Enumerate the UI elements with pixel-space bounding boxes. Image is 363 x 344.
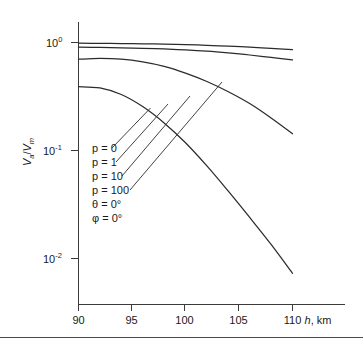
legend-item-p-0: p = 0 xyxy=(92,142,117,154)
x-axis-tick-labels: 90 95 100 105 110 xyxy=(72,314,301,326)
x-tick-label-90: 90 xyxy=(72,314,84,326)
leader-p-0 xyxy=(112,108,151,148)
y-tick-label-1e-2: 10-2 xyxy=(43,251,62,265)
x-axis-title: h, km xyxy=(305,314,332,326)
leader-p-100 xyxy=(130,82,222,190)
legend-item-theta: θ = 0° xyxy=(92,198,121,210)
curve-p-10 xyxy=(79,58,293,133)
y-axis-tick-labels: 100 10-1 10-2 xyxy=(43,35,62,265)
legend-item-p-100: p = 100 xyxy=(92,184,129,196)
x-tick-label-105: 105 xyxy=(229,314,247,326)
y-tick-label-1e0: 100 xyxy=(46,35,62,49)
axis-lines xyxy=(78,22,345,305)
x-tick-label-95: 95 xyxy=(125,314,137,326)
svg-text:h, km: h, km xyxy=(305,314,332,326)
y-axis-title: Va/Vm xyxy=(21,138,36,166)
legend-item-phi: φ = 0° xyxy=(92,212,122,224)
y-axis-ticks xyxy=(71,43,79,259)
svg-text:Va/Vm: Va/Vm xyxy=(21,138,36,166)
legend-item-p-1: p = 1 xyxy=(92,156,117,168)
figure-container: 100 10-1 10-2 Va/Vm 90 95 100 105 110 h,… xyxy=(0,0,363,344)
bottom-divider xyxy=(0,337,363,338)
curve-p-0 xyxy=(79,43,293,49)
leader-p-1 xyxy=(116,104,168,162)
legend-item-p-10: p = 10 xyxy=(92,170,123,182)
chart-svg: 100 10-1 10-2 Va/Vm 90 95 100 105 110 h,… xyxy=(0,0,363,344)
x-tick-label-110: 110 xyxy=(284,314,302,326)
y-tick-label-1e-1: 10-1 xyxy=(43,143,62,157)
x-axis-ticks xyxy=(79,305,293,312)
x-tick-label-100: 100 xyxy=(175,314,193,326)
leader-p-10 xyxy=(122,96,190,176)
